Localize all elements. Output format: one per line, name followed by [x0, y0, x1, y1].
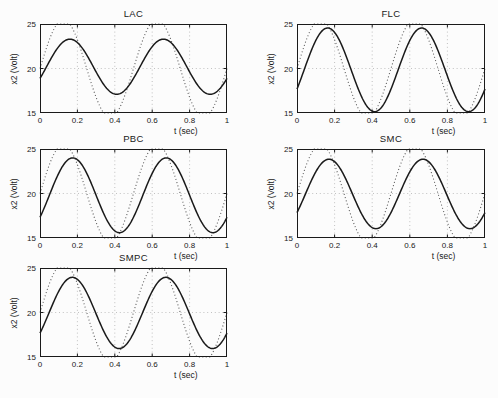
y-tick-label: 15	[27, 234, 36, 243]
x-tick-label: 0.2	[329, 116, 340, 125]
x-tick-label: 0.6	[147, 241, 158, 250]
x-tick-label: 0	[38, 241, 42, 250]
x-tick-label: 0.6	[404, 241, 415, 250]
x-tick-label: 0	[295, 116, 299, 125]
figure: LAC x2 (Volt) t (sec) 00.20.40.60.811520…	[0, 0, 498, 398]
plot-area	[297, 24, 485, 113]
x-tick-label: 0.4	[367, 241, 378, 250]
x-tick-label: 0.8	[184, 241, 195, 250]
reference-curve	[40, 24, 227, 113]
response-curve	[297, 28, 485, 112]
axis-box	[41, 150, 227, 238]
x-tick-label: 1	[225, 116, 229, 125]
y-tick-label: 25	[27, 145, 36, 154]
y-tick-label: 25	[284, 20, 293, 29]
plot-area	[297, 149, 485, 238]
x-tick-label: 0.8	[442, 241, 453, 250]
plot-area	[40, 268, 227, 357]
subplot: PBC x2 (Volt) t (sec) 00.20.40.60.811520…	[40, 149, 227, 238]
y-tick-label: 15	[284, 109, 293, 118]
y-axis-label: x2 (Volt)	[9, 53, 19, 84]
subplot-title: FLC	[297, 8, 485, 19]
x-tick-label: 0.6	[147, 360, 158, 369]
x-tick-label: 1	[483, 116, 487, 125]
y-tick-label: 15	[27, 353, 36, 362]
subplot: LAC x2 (Volt) t (sec) 00.20.40.60.811520…	[40, 24, 227, 113]
y-axis-label: x2 (Volt)	[266, 178, 276, 209]
y-tick-label: 25	[27, 20, 36, 29]
x-tick-label: 1	[483, 241, 487, 250]
y-tick-label: 20	[284, 189, 293, 198]
subplot: FLC x2 (Volt) t (sec) 00.20.40.60.811520…	[297, 24, 485, 113]
x-tick-label: 0.4	[109, 241, 120, 250]
reference-curve	[40, 149, 227, 238]
x-tick-label: 0.6	[404, 116, 415, 125]
y-tick-label: 15	[27, 109, 36, 118]
y-axis-label: x2 (Volt)	[9, 178, 19, 209]
response-curve	[297, 159, 485, 228]
y-axis-label: x2 (Volt)	[266, 53, 276, 84]
y-tick-label: 20	[27, 308, 36, 317]
subplot-title: SMPC	[40, 252, 227, 263]
x-tick-label: 0.8	[184, 116, 195, 125]
y-tick-label: 25	[284, 145, 293, 154]
x-tick-label: 0.2	[72, 116, 83, 125]
x-tick-label: 1	[225, 360, 229, 369]
x-tick-label: 0.8	[442, 116, 453, 125]
x-tick-label: 0	[38, 360, 42, 369]
subplot-title: LAC	[40, 8, 227, 19]
x-axis-label: t (sec)	[174, 370, 198, 380]
subplot-title: SMC	[297, 133, 485, 144]
x-tick-label: 0.6	[147, 116, 158, 125]
subplot-title: PBC	[40, 133, 227, 144]
x-tick-label: 0.4	[109, 116, 120, 125]
y-tick-label: 15	[284, 234, 293, 243]
y-tick-label: 25	[27, 264, 36, 273]
axis-box	[41, 25, 227, 113]
plot-area	[40, 24, 227, 113]
x-tick-label: 0.4	[367, 116, 378, 125]
axis-box	[41, 269, 227, 357]
y-axis-label: x2 (Volt)	[9, 297, 19, 328]
x-tick-label: 0.2	[329, 241, 340, 250]
x-tick-label: 0.4	[109, 360, 120, 369]
x-tick-label: 0	[295, 241, 299, 250]
subplot: SMC x2 (Volt) t (sec) 00.20.40.60.811520…	[297, 149, 485, 238]
x-tick-label: 0	[38, 116, 42, 125]
x-tick-label: 0.2	[72, 241, 83, 250]
reference-curve	[40, 268, 227, 357]
x-tick-label: 0.8	[184, 360, 195, 369]
y-tick-label: 20	[284, 64, 293, 73]
y-tick-label: 20	[27, 64, 36, 73]
x-axis-label: t (sec)	[432, 251, 456, 261]
axis-box	[298, 150, 485, 238]
subplot: SMPC x2 (Volt) t (sec) 00.20.40.60.81152…	[40, 268, 227, 357]
x-tick-label: 1	[225, 241, 229, 250]
x-tick-label: 0.2	[72, 360, 83, 369]
plot-area	[40, 149, 227, 238]
y-tick-label: 20	[27, 189, 36, 198]
response-curve	[40, 277, 227, 348]
